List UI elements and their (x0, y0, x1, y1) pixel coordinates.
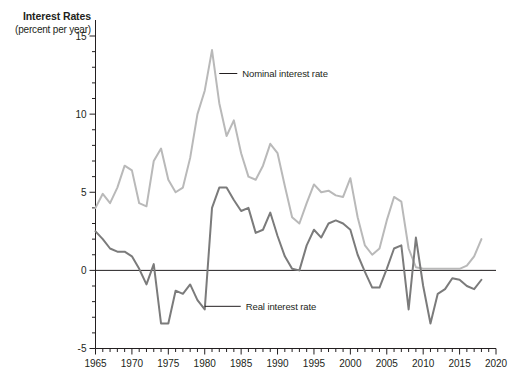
x-tick-label: 2000 (339, 358, 362, 369)
series-line-nominal-interest-rate (96, 50, 482, 269)
x-tick-label: 1975 (157, 358, 180, 369)
chart-svg: -5051015 1965197019751980198519901995200… (0, 0, 511, 391)
x-axis-minor-ticks (103, 349, 489, 353)
x-tick-label: 1970 (121, 358, 144, 369)
x-tick-label: 1995 (303, 358, 326, 369)
series-annotation-label: Nominal interest rate (242, 68, 328, 79)
x-tick-label: 2015 (448, 358, 471, 369)
x-tick-label: 1990 (266, 358, 289, 369)
y-tick-label: -5 (78, 343, 87, 354)
x-axis-tick-labels: 1965197019751980198519901995200020052010… (84, 358, 507, 369)
series-annotation-label: Real interest rate (246, 301, 317, 312)
y-tick-label: 15 (75, 31, 87, 42)
data-series-group (96, 50, 482, 323)
x-tick-label: 2005 (376, 358, 399, 369)
x-tick-label: 1985 (230, 358, 253, 369)
x-tick-label: 2010 (412, 358, 435, 369)
x-axis-major-ticks (96, 349, 497, 355)
x-tick-label: 1965 (84, 358, 107, 369)
y-tick-label: 5 (81, 187, 87, 198)
x-tick-label: 2020 (485, 358, 508, 369)
y-tick-label: 10 (75, 109, 87, 120)
x-tick-label: 1980 (194, 358, 217, 369)
interest-rates-chart: Interest Rates (percent per year) -50510… (0, 0, 511, 391)
y-tick-label: 0 (81, 265, 87, 276)
series-annotations: Nominal interest rateReal interest rate (205, 68, 328, 312)
y-axis-tick-labels: -5051015 (75, 31, 87, 355)
